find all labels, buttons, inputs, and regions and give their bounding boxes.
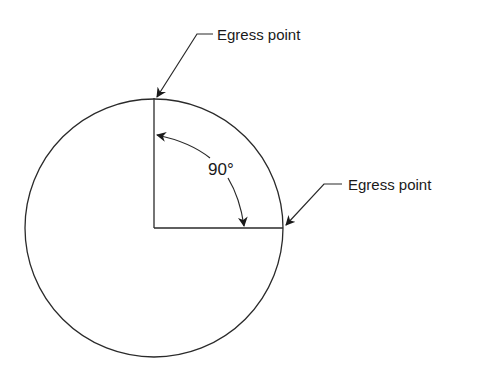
top-egress-leader: [157, 34, 213, 97]
egress-diagram: 90° Egress point Egress point: [0, 0, 489, 374]
right-egress-label: Egress point: [348, 176, 432, 193]
right-egress-leader: [286, 184, 342, 225]
top-egress-label: Egress point: [217, 26, 301, 43]
angle-arrow-up: [157, 135, 210, 158]
angle-arrow-down: [228, 178, 244, 226]
angle-label: 90°: [208, 160, 234, 179]
